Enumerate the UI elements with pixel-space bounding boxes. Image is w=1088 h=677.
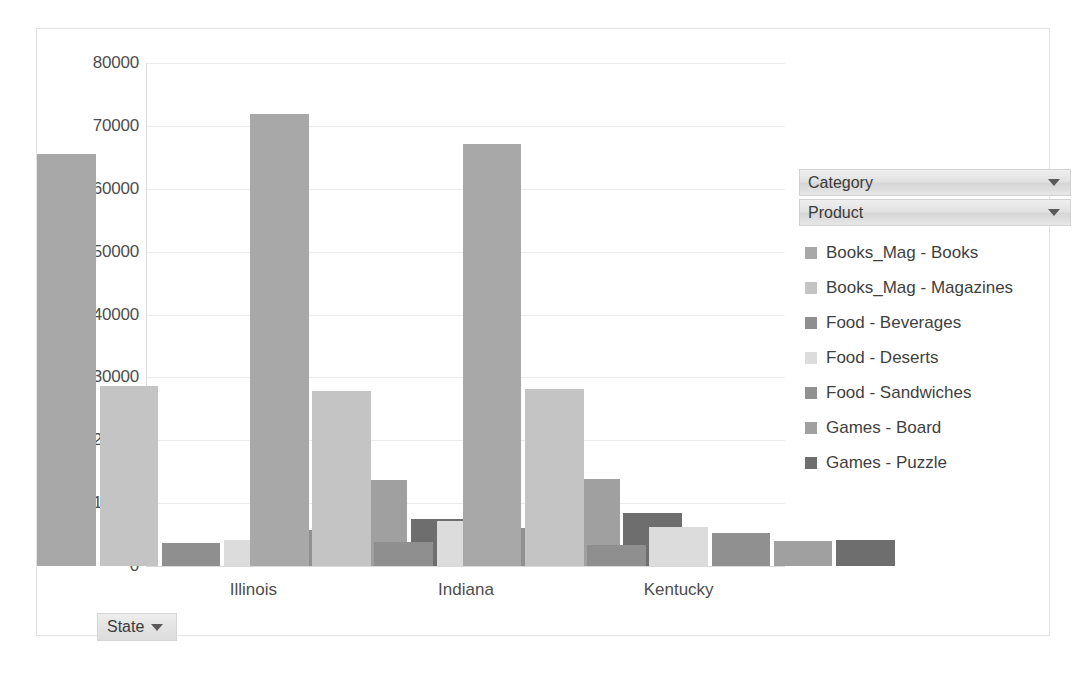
bar[interactable] bbox=[312, 391, 371, 566]
bar[interactable] bbox=[162, 543, 221, 566]
legend-swatch-icon bbox=[805, 387, 817, 399]
bar[interactable] bbox=[100, 386, 159, 566]
plot-area[interactable]: IllinoisIndianaKentucky bbox=[147, 63, 785, 566]
bar[interactable] bbox=[836, 540, 895, 566]
legend-swatch-icon bbox=[805, 422, 817, 434]
bar[interactable] bbox=[649, 527, 708, 566]
bar[interactable] bbox=[525, 389, 584, 566]
legend-item-label: Food - Sandwiches bbox=[826, 383, 972, 403]
category-filter-button[interactable]: Category bbox=[799, 169, 1071, 196]
category-filter-label: Category bbox=[808, 174, 1048, 192]
legend-swatch-icon bbox=[805, 282, 817, 294]
bar[interactable] bbox=[374, 542, 433, 566]
bar[interactable] bbox=[712, 533, 771, 566]
chevron-down-icon[interactable] bbox=[151, 624, 163, 631]
x-axis-tick-label: Indiana bbox=[360, 580, 573, 600]
state-filter-label: State bbox=[107, 618, 144, 636]
gridline bbox=[147, 566, 785, 567]
bar[interactable] bbox=[774, 541, 833, 566]
legend-item-label: Food - Beverages bbox=[826, 313, 961, 333]
legend-item-label: Books_Mag - Books bbox=[826, 243, 978, 263]
y-axis-tick-label: 80000 bbox=[61, 53, 139, 73]
legend-panel: Category Product Books_Mag - BooksBooks_… bbox=[799, 169, 1071, 480]
legend-item[interactable]: Food - Sandwiches bbox=[799, 375, 1071, 410]
product-filter-label: Product bbox=[808, 204, 1048, 222]
product-filter-button[interactable]: Product bbox=[799, 199, 1071, 226]
legend-item[interactable]: Food - Deserts bbox=[799, 340, 1071, 375]
legend-item[interactable]: Books_Mag - Magazines bbox=[799, 270, 1071, 305]
bar[interactable] bbox=[250, 114, 309, 566]
legend-item[interactable]: Books_Mag - Books bbox=[799, 235, 1071, 270]
legend-swatch-icon bbox=[805, 317, 817, 329]
legend-swatch-icon bbox=[805, 247, 817, 259]
chevron-down-icon[interactable] bbox=[1048, 179, 1060, 186]
bar-group: Kentucky bbox=[572, 63, 785, 566]
bar[interactable] bbox=[463, 144, 522, 566]
pivot-chart-frame: 0100002000030000400005000060000700008000… bbox=[36, 28, 1050, 636]
state-filter-button[interactable]: State bbox=[97, 613, 177, 641]
legend-item[interactable]: Food - Beverages bbox=[799, 305, 1071, 340]
y-axis-tick-label: 70000 bbox=[61, 116, 139, 136]
legend-items: Books_Mag - BooksBooks_Mag - MagazinesFo… bbox=[799, 235, 1071, 480]
x-axis-tick-label: Illinois bbox=[147, 580, 360, 600]
bar[interactable] bbox=[37, 154, 96, 566]
legend-swatch-icon bbox=[805, 352, 817, 364]
x-axis-tick-label: Kentucky bbox=[572, 580, 785, 600]
legend-item-label: Food - Deserts bbox=[826, 348, 938, 368]
legend-item[interactable]: Games - Puzzle bbox=[799, 445, 1071, 480]
chevron-down-icon[interactable] bbox=[1048, 209, 1060, 216]
legend-swatch-icon bbox=[805, 457, 817, 469]
legend-item[interactable]: Games - Board bbox=[799, 410, 1071, 445]
legend-item-label: Books_Mag - Magazines bbox=[826, 278, 1013, 298]
legend-item-label: Games - Puzzle bbox=[826, 453, 947, 473]
legend-item-label: Games - Board bbox=[826, 418, 941, 438]
bar[interactable] bbox=[587, 545, 646, 566]
